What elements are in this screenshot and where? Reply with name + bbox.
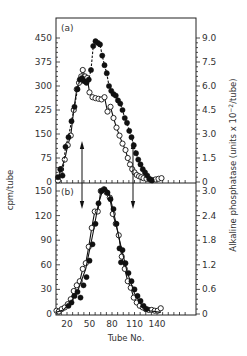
panel-b-tag: (b) xyxy=(61,187,74,197)
filled-circle-marker xyxy=(69,119,74,124)
arrowhead-down-icon xyxy=(80,201,84,209)
open-circle-marker xyxy=(105,109,110,114)
filled-circle-marker xyxy=(127,128,132,133)
open-circle-marker xyxy=(123,147,128,152)
y-tick-label-right: 1.5 xyxy=(202,153,216,163)
y-tick-label-left: 450 xyxy=(35,33,52,43)
chart-figure: 07515022530037545001.53.04.56.07.59.0030… xyxy=(0,0,247,356)
y-tick-label-right: 3.0 xyxy=(202,129,217,139)
y-tick-label-right: 9.0 xyxy=(202,33,217,43)
filled-circle-marker xyxy=(122,115,127,120)
y-axis-left-label: cpm/tube xyxy=(5,170,15,211)
filled-circle-marker xyxy=(75,87,80,92)
filled-circle-marker xyxy=(84,275,89,280)
filled-circle-marker xyxy=(78,295,83,300)
open-circle-marker xyxy=(87,90,92,95)
open-circle-marker xyxy=(159,176,164,181)
y-axis-right-label-exponent: −2 xyxy=(227,104,234,113)
filled-circle-marker xyxy=(138,162,143,167)
open-circle-marker xyxy=(108,104,113,109)
y-axis-right-label: Alkaline phosphatase (units x 10−2/tube) xyxy=(227,78,238,251)
fitted-curve-line xyxy=(56,189,161,313)
filled-circle-marker xyxy=(106,83,111,88)
y-tick-label-right: 1.8 xyxy=(202,235,217,245)
y-tick-label-left: 150 xyxy=(35,186,52,196)
filled-circle-marker xyxy=(88,67,93,72)
filled-circle-marker xyxy=(72,104,77,109)
y-tick-label-left: 75 xyxy=(41,153,52,163)
y-tick-label-right: 0.6 xyxy=(202,284,217,294)
y-tick-label-left: 375 xyxy=(35,57,52,67)
filled-circle-marker xyxy=(58,167,63,172)
filled-circle-marker xyxy=(118,101,123,106)
filled-circle-marker xyxy=(136,157,141,162)
filled-circle-marker xyxy=(124,120,129,125)
filled-circle-marker xyxy=(129,135,134,140)
y-tick-label-right: 2.4 xyxy=(202,211,217,221)
y-tick-label-right: 7.5 xyxy=(202,57,216,67)
filled-circle-marker xyxy=(113,93,118,98)
y-tick-label-right: 3.0 xyxy=(202,186,217,196)
x-tick-label: 140 xyxy=(148,319,165,329)
y-tick-label-right: 6.0 xyxy=(202,81,217,91)
y-tick-label-left: 225 xyxy=(35,105,52,115)
x-tick-label: 50 xyxy=(84,319,96,329)
filled-circle-marker xyxy=(149,178,154,183)
arrowhead-up-icon xyxy=(80,141,84,149)
y-tick-label-left: 300 xyxy=(35,81,52,91)
filled-circle-marker xyxy=(81,283,86,288)
filled-circle-marker xyxy=(60,173,65,178)
y-tick-label-right: 0 xyxy=(202,309,208,319)
open-circle-marker xyxy=(117,133,122,138)
x-tick-label: 110 xyxy=(126,319,143,329)
y-tick-label-left: 90 xyxy=(41,235,53,245)
y-axis-right-label-end: /tube) xyxy=(228,78,238,104)
x-axis-label: Tube No. xyxy=(107,333,145,343)
filled-circle-marker xyxy=(63,144,68,149)
y-tick-label-left: 0 xyxy=(46,309,52,319)
open-circle-marker xyxy=(80,67,85,72)
filled-circle-marker xyxy=(120,107,125,112)
panel-a-tag: (a) xyxy=(61,23,74,33)
filled-circle-marker xyxy=(104,71,109,76)
filled-circle-marker xyxy=(133,151,138,156)
open-circle-marker xyxy=(102,95,107,100)
open-circle-marker xyxy=(120,141,125,146)
filled-circle-marker xyxy=(66,135,71,140)
open-circle-marker xyxy=(125,155,130,160)
data-series xyxy=(54,39,164,315)
filled-circle-marker xyxy=(86,77,91,82)
y-tick-label-left: 150 xyxy=(35,129,52,139)
open-circle-marker xyxy=(158,306,163,311)
y-tick-label-left: 30 xyxy=(41,284,53,294)
filled-circle-marker xyxy=(102,63,107,68)
open-circle-marker xyxy=(111,115,116,120)
axis-tick-labels: 07515022530037545001.53.04.56.07.59.0030… xyxy=(35,33,217,329)
x-tick-label: 20 xyxy=(61,319,73,329)
open-circle-marker xyxy=(114,125,119,130)
filled-circle-marker xyxy=(100,53,105,58)
x-tick-label: 80 xyxy=(106,319,118,329)
y-tick-label-left: 120 xyxy=(35,211,52,221)
y-tick-label-left: 60 xyxy=(41,260,53,270)
filled-circle-marker xyxy=(97,42,102,47)
y-axis-right-label-main: Alkaline phosphatase (units x 10 xyxy=(228,113,238,252)
arrowhead-down-icon xyxy=(131,201,135,209)
y-tick-label-right: 1.2 xyxy=(202,260,216,270)
y-tick-label-right: 4.5 xyxy=(202,105,216,115)
filled-circle-marker xyxy=(91,43,96,48)
